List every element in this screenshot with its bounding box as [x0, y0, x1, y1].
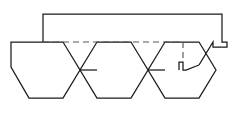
diagram-canvas: [0, 0, 236, 113]
figure-root: Three linked hexagonal rings with an enc…: [0, 0, 236, 113]
